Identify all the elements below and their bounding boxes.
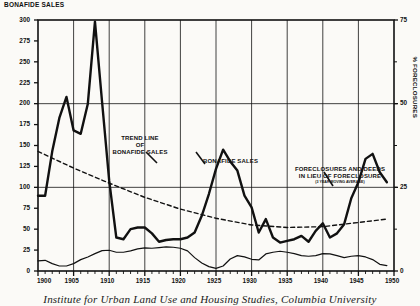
annotation-trend-line: TREND LINE OF BONAFIDE SALES (100, 135, 180, 156)
x-tick-1925: 1925 (207, 278, 221, 284)
annotation-foreclosures-line2: IN LIEU OF FORECLOSURE (281, 173, 399, 180)
x-tick-1920: 1920 (171, 278, 185, 284)
y-tick-75: 75 (10, 205, 30, 211)
y-tick-225: 225 (10, 80, 30, 86)
annotation-foreclosures: FORECLOSURES AND DEEDS IN LIEU OF FORECL… (281, 166, 399, 184)
y-tick-50: 50 (10, 226, 30, 232)
x-tick-1935: 1935 (278, 278, 292, 284)
y2-tick-75: 75 (400, 17, 407, 23)
x-tick-1905: 1905 (65, 278, 79, 284)
y2-tick-0: 0 (400, 268, 404, 274)
y-tick-150: 150 (10, 142, 30, 148)
y-tick-200: 200 (10, 100, 30, 106)
x-tick-1950: 1950 (385, 278, 399, 284)
x-tick-1940: 1940 (314, 278, 328, 284)
y2-tick-25: 25 (400, 184, 407, 190)
x-tick-1915: 1915 (136, 278, 150, 284)
chart-plot (0, 0, 420, 306)
y-tick-275: 275 (10, 38, 30, 44)
x-tick-1945: 1945 (349, 278, 363, 284)
series-0 (38, 22, 387, 243)
y2-tick-50: 50 (400, 100, 407, 106)
y-tick-125: 125 (10, 163, 30, 169)
figure-caption: Institute for Urban Land Use and Housing… (0, 293, 420, 305)
annotation-trend-line2: OF (100, 142, 180, 149)
y-tick-250: 250 (10, 59, 30, 65)
annotation-bonafide-sales: BONAFIDE SALES (203, 158, 273, 165)
annotation-foreclosures-line3: (3 YEAR MOVING AVERAGE) (281, 180, 399, 184)
y-tick-0: 0 (10, 268, 30, 274)
y-tick-100: 100 (10, 184, 30, 190)
series-2 (38, 247, 387, 268)
x-tick-1930: 1930 (243, 278, 257, 284)
y-tick-175: 175 (10, 121, 30, 127)
annotation-trend-line1: TREND LINE (100, 135, 180, 142)
x-tick-1900: 1900 (37, 278, 51, 284)
chart-figure: BONAFIDE SALES % FORECLOSURES TREND LINE… (0, 0, 420, 306)
y-tick-300: 300 (10, 17, 30, 23)
x-tick-1910: 1910 (100, 278, 114, 284)
y-tick-25: 25 (10, 247, 30, 253)
annotation-foreclosures-line1: FORECLOSURES AND DEEDS (281, 166, 399, 173)
annotation-trend-line3: BONAFIDE SALES (100, 149, 180, 156)
